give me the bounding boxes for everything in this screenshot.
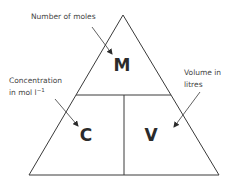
moles-label: Number of moles	[31, 12, 96, 21]
moles-letter: M	[114, 55, 131, 75]
volume-label-line1: Volume in	[184, 68, 221, 77]
formula-triangle-diagram: M C V Number of moles Concentration in m…	[0, 0, 243, 187]
concentration-unit-superscript: −1	[37, 87, 45, 93]
volume-letter: V	[144, 125, 158, 145]
concentration-unit: in mol l	[9, 88, 37, 97]
concentration-arrow	[55, 99, 78, 126]
concentration-label-line2: in mol l−1	[9, 87, 45, 97]
concentration-label-line1: Concentration	[9, 76, 62, 85]
volume-label-line2: litres	[184, 80, 203, 89]
concentration-letter: C	[80, 125, 92, 145]
